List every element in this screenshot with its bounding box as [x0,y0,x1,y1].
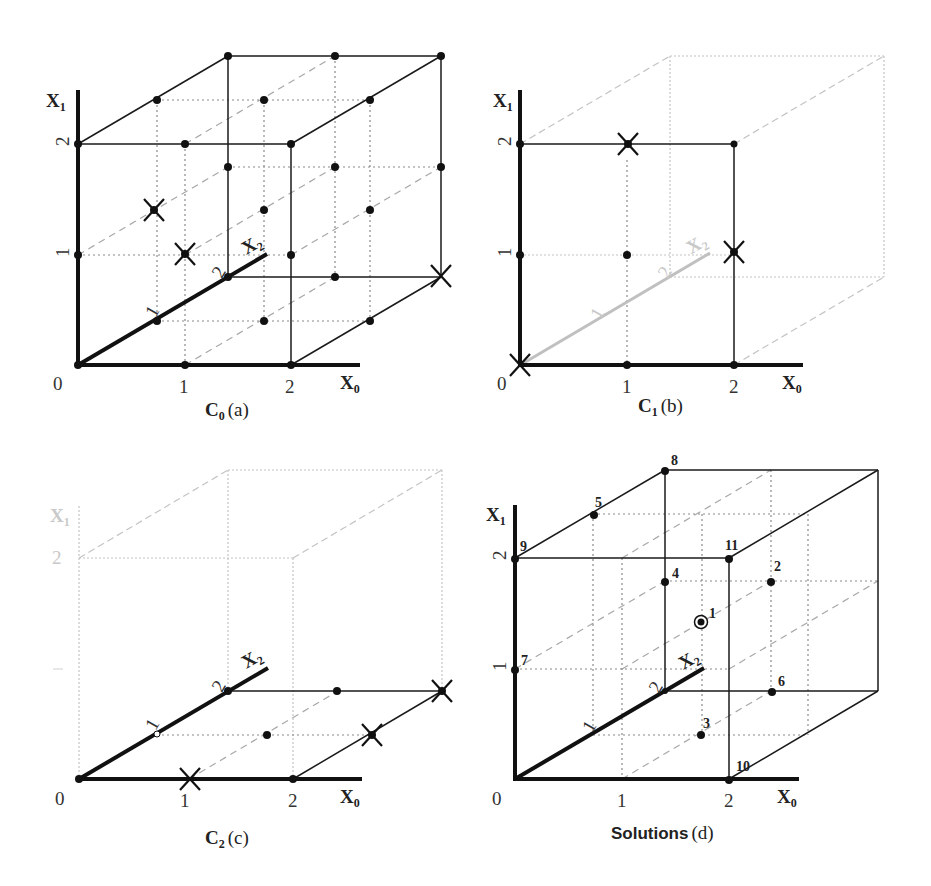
panel-b: 1 2 X2 X1 2 1 0 1 2 X0 [493,56,884,419]
x0-tick-2: 2 [729,376,739,397]
solution-point-1: 1 [695,606,717,629]
x2-axis [79,668,268,779]
x2-axis [78,254,267,365]
panel-a-crosses [144,199,451,287]
origin-label: 0 [53,373,63,394]
x2-tick-1: 1 [577,717,600,736]
x2-tick-2-faded: 2 [653,263,676,282]
solution-point-8: 8 [661,453,678,475]
panel-d: 1 2 3 4 5 6 7 [486,453,878,844]
panel-a-cube-edges [78,56,441,365]
panel-c-bottom-plane [157,691,442,779]
x0-axis-label: X0 [777,786,797,810]
x1-axis-label: X1 [46,90,66,114]
panel-d-caption: Solutions(d) [611,822,714,844]
x0-tick-1: 1 [180,790,190,811]
panel-c-caption: C2(c) [205,827,249,851]
origin-label: 0 [492,788,502,809]
x0-tick-1: 1 [622,376,632,397]
solution-point-5: 5 [590,495,602,519]
x2-axis [515,668,704,779]
x0-axis-label: X0 [782,372,802,396]
constraint-cube-figure: X1 2 1 0 1 2 X0 1 2 X2 C0(a) 1 2 X2 [0,0,931,886]
svg-text:6: 6 [778,674,785,689]
svg-text:2: 2 [774,559,781,574]
panel-d-axes [513,505,799,781]
x0-tick-2: 2 [288,790,298,811]
x0-tick-1: 1 [617,790,627,811]
svg-text:9: 9 [520,539,527,554]
panel-c: X1 2 0 1 2 X0 1 [50,470,452,851]
x1-tick-2: 2 [52,137,73,147]
x1-axis-label: X1 [493,90,513,114]
panel-d-solution-points: 1 2 3 4 5 6 7 [511,453,785,784]
panel-a-hidden-grid [78,56,441,365]
x1-tick-2: 2 [494,137,515,147]
panel-b-axes [518,90,803,367]
x1-tick-1: 1 [494,248,515,258]
origin-label: 0 [55,788,65,809]
x0-tick-2: 2 [724,790,734,811]
svg-text:1: 1 [709,606,716,621]
x2-tick-2: 2 [207,263,230,282]
solution-point-2: 2 [767,559,781,586]
origin-label: 0 [497,373,507,394]
x1-axis-label-faded: X1 [50,505,70,529]
x0-axis-label: X0 [340,372,360,396]
x2-tick-2: 2 [207,677,230,696]
x2-tick-1: 1 [140,302,163,321]
svg-text:4: 4 [672,566,679,581]
x1-tick-1: 1 [489,662,510,672]
x2-tick-1: 1 [140,715,163,734]
panel-c-faint-cube: X1 2 [50,470,442,779]
x0-tick-2: 2 [285,376,295,397]
svg-text:3: 3 [703,716,710,731]
cross-icon [362,724,382,746]
panel-b-faint-cube: 1 2 X2 [520,56,884,365]
svg-text:11: 11 [725,538,738,553]
x0-tick-1: 1 [179,376,189,397]
x2-tick-1-faded: 1 [585,304,608,323]
panel-a-axes [76,90,360,367]
panel-b-caption: C1(b) [638,395,683,419]
x1-tick-2-faded: 2 [52,547,62,568]
x0-axis-label: X0 [340,786,360,810]
x1-tick-1: 1 [52,248,73,258]
svg-text:8: 8 [671,453,678,468]
x2-tick-2: 2 [644,678,667,697]
cross-icon [175,243,195,265]
svg-text:10: 10 [736,759,750,774]
cross-icon [144,199,164,221]
panel-a-caption: C0(a) [205,399,249,423]
svg-text:5: 5 [595,495,602,510]
svg-text:7: 7 [521,653,528,668]
x1-tick-2: 2 [489,551,510,561]
x1-axis-label: X1 [486,504,506,528]
solution-point-4: 4 [661,566,679,586]
panel-a: X1 2 1 0 1 2 X0 1 2 X2 C0(a) [46,52,451,423]
solution-point-11: 11 [725,538,738,563]
